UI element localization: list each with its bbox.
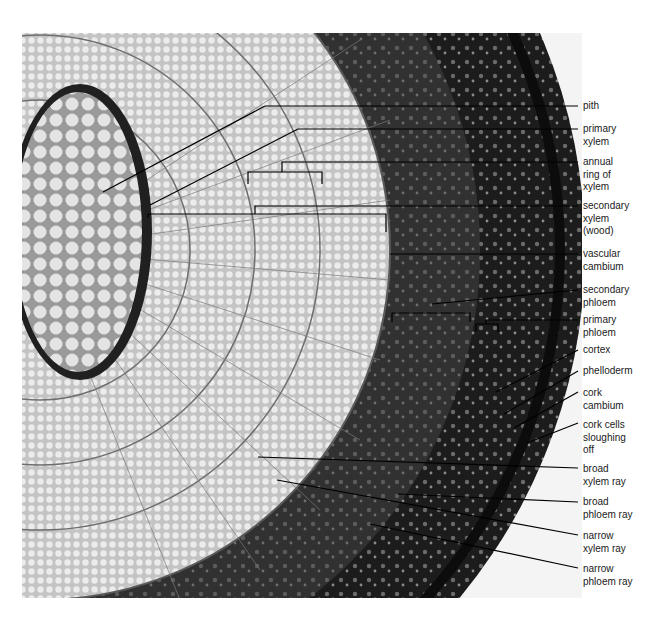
label-pith: pith [583,100,599,113]
label-secondary-xylem: secondary xylem (wood) [583,200,629,238]
label-vascular-cambium: vascular cambium [583,248,624,273]
label-cortex: cortex [583,344,610,357]
pith-region [14,92,142,372]
micrograph-photo [0,0,650,618]
label-narrow-phloem-ray: narrow phloem ray [583,563,632,588]
label-primary-xylem: primary xylem [583,123,616,148]
label-broad-xylem-ray: broad xylem ray [583,463,626,488]
label-cork-cells: cork cells sloughing off [583,419,626,457]
label-primary-phloem: primary phloem [583,314,616,339]
label-secondary-phloem: secondary phloem [583,284,629,309]
label-annual-ring: annual ring of xylem [583,156,613,194]
stem-cross-section-micrograph [0,0,650,618]
label-narrow-xylem-ray: narrow xylem ray [583,530,626,555]
label-broad-phloem-ray: broad phloem ray [583,496,632,521]
label-cork-cambium: cork cambium [583,387,624,412]
label-phelloderm: phelloderm [583,365,632,378]
